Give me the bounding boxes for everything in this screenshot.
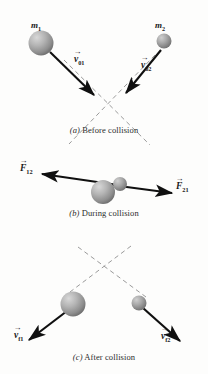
velocity-v01-subscript: 01	[78, 59, 84, 66]
vector-arrow-icon: →	[20, 157, 28, 165]
velocity-arrow-v01	[50, 52, 94, 95]
force-F21-label: →F21	[176, 181, 188, 193]
caption-panel-c: (c) After collision	[0, 352, 208, 362]
mass-2-sphere-contact	[113, 177, 127, 191]
vector-arrow-icon: →	[14, 324, 22, 332]
dashed-incoming-path-1	[78, 247, 146, 297]
force-F12-label: →F12	[20, 163, 32, 175]
velocity-v02-symbol: →v	[141, 60, 145, 70]
velocity-v02-subscript: 02	[145, 65, 151, 72]
caption-c-text: After collision	[84, 352, 135, 362]
panel-c-after-collision	[29, 246, 180, 341]
force-F12-subscript: 12	[26, 168, 32, 175]
force-F21-subscript: 21	[182, 186, 188, 193]
caption-c-index: (c)	[73, 352, 83, 362]
mass-2-sphere	[157, 34, 172, 49]
vector-arrow-icon: →	[74, 48, 82, 56]
caption-b-text: During collision	[82, 208, 139, 218]
velocity-vf2-symbol: →v	[161, 331, 165, 341]
mass-1-sphere-after	[61, 292, 86, 317]
caption-a-index: (a)	[70, 125, 80, 135]
mass-1-subscript: 1	[38, 25, 41, 32]
vector-arrow-icon: →	[141, 54, 149, 62]
panel-b-during-collision	[42, 174, 172, 204]
velocity-arrow-vf1	[29, 311, 67, 340]
velocity-vf2-label: →vf2	[161, 331, 170, 343]
velocity-vf1-symbol: →v	[14, 330, 18, 340]
vector-arrow-icon: →	[176, 175, 184, 183]
force-F21-symbol: →F	[176, 181, 182, 191]
mass-2-subscript: 2	[162, 25, 165, 32]
caption-a-text: Before collision	[82, 125, 138, 135]
caption-panel-b: (b) During collision	[0, 208, 208, 218]
mass-1-label: m1	[31, 20, 41, 32]
caption-panel-a: (a) Before collision	[0, 125, 208, 135]
mass-1-sphere	[29, 31, 54, 56]
mass-2-label: m2	[155, 20, 165, 32]
dashed-incoming-path-2	[62, 246, 131, 298]
velocity-vf1-subscript: f1	[18, 335, 23, 342]
velocity-vf1-label: →vf1	[14, 330, 23, 342]
velocity-v01-label: →v01	[74, 54, 84, 66]
mass-2-sphere-after	[132, 296, 147, 311]
velocity-v01-symbol: →v	[74, 54, 78, 64]
force-F12-symbol: →F	[20, 163, 26, 173]
mass-2-symbol: m	[155, 20, 162, 30]
mass-1-sphere-contact	[91, 180, 115, 204]
collision-figure: m1 m2 →v01 →v02 →F12 →F21 →vf1 →vf2 (a) …	[0, 0, 208, 374]
caption-b-index: (b)	[69, 208, 79, 218]
velocity-v02-label: →v02	[141, 60, 151, 72]
vector-arrow-icon: →	[161, 325, 169, 333]
velocity-vf2-subscript: f2	[165, 336, 170, 343]
mass-1-symbol: m	[31, 20, 38, 30]
